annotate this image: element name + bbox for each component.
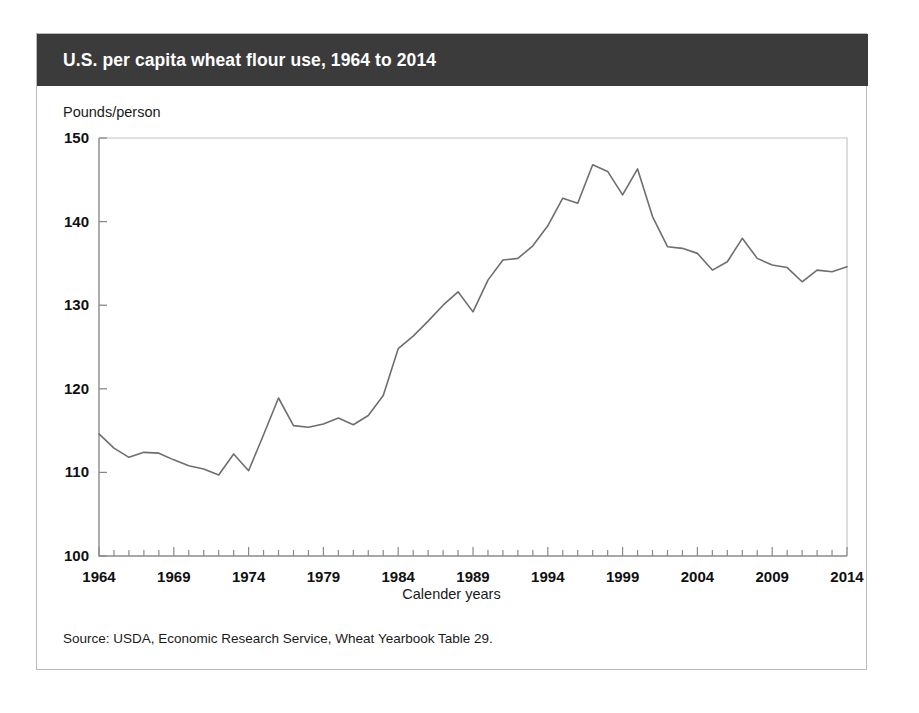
x-tick-label: 2009	[756, 568, 789, 585]
x-tick-label: 1969	[157, 568, 190, 585]
x-tick-label: 2014	[830, 568, 864, 585]
y-tick-label: 120	[64, 380, 89, 397]
x-tick-label: 1994	[531, 568, 565, 585]
x-tick-label: 1979	[307, 568, 340, 585]
x-tick-label: 1984	[382, 568, 416, 585]
source-note: Source: USDA, Economic Research Service,…	[63, 631, 493, 646]
x-tick-label: 1989	[456, 568, 489, 585]
y-tick-label: 150	[64, 129, 89, 146]
page-title: U.S. per capita wheat flour use, 1964 to…	[37, 50, 436, 71]
data-series-line	[99, 165, 847, 475]
y-tick-label: 130	[64, 296, 89, 313]
x-axis-title: Calender years	[37, 586, 866, 602]
line-chart: 100110120130140150 196419691974197919841…	[37, 86, 866, 586]
y-tick-label: 100	[64, 547, 89, 564]
figure-card: U.S. per capita wheat flour use, 1964 to…	[36, 33, 867, 670]
x-axis-tick-labels: 1964196919741979198419891994199920042009…	[82, 568, 864, 585]
axis-tick-marks	[99, 138, 847, 556]
x-tick-label: 1999	[606, 568, 639, 585]
x-tick-label: 1964	[82, 568, 116, 585]
axis-lines	[99, 138, 847, 556]
y-axis-tick-labels: 100110120130140150	[64, 129, 89, 564]
plot-region: Pounds/person 100110120130140150 1964196…	[37, 86, 866, 669]
x-tick-label: 2004	[681, 568, 715, 585]
x-tick-label: 1974	[232, 568, 266, 585]
chart-title-bar: U.S. per capita wheat flour use, 1964 to…	[37, 34, 868, 86]
y-tick-label: 110	[65, 463, 89, 480]
y-tick-label: 140	[64, 213, 89, 230]
